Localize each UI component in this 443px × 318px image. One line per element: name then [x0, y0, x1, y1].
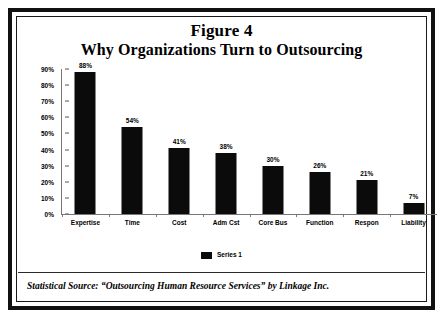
chart-legend: Series 1	[17, 251, 426, 259]
y-axis-tick-70: 70%	[41, 98, 54, 105]
bar-cost[interactable]	[169, 148, 190, 214]
x-axis-category-label: Core Bus	[258, 219, 287, 227]
x-axis-tickmark-adm-cst	[203, 214, 204, 217]
y-axis-tick-0: 0%	[45, 211, 54, 218]
x-axis-category-label: Function	[306, 219, 333, 227]
figure-outer-frame: Figure 4 Why Organizations Turn to Outso…	[8, 8, 435, 310]
caption-divider	[18, 272, 425, 273]
x-axis-tickmark-respon	[343, 214, 344, 217]
y-axis-tick-20: 20%	[41, 178, 54, 185]
bar-group: 88%Expertise	[62, 69, 109, 214]
bar-value-label: 26%	[313, 162, 326, 170]
legend-swatch-series-1	[201, 252, 212, 259]
y-axis-tick-10: 10%	[41, 194, 54, 201]
bar-expertise[interactable]	[75, 72, 96, 214]
bar-value-label: 41%	[173, 138, 186, 146]
y-axis-tick-60: 60%	[41, 114, 54, 121]
x-axis-category-label: Time	[125, 219, 140, 227]
bar-respon[interactable]	[356, 180, 377, 214]
y-axis-tick-80: 80%	[41, 82, 54, 89]
x-axis-tickmark-expertise	[62, 214, 63, 217]
bar-value-label: 38%	[220, 143, 233, 151]
figure-number: Figure 4	[17, 21, 426, 40]
bars-layer: 88%Expertise54%Time41%Cost38%Adm Cst30%C…	[62, 69, 437, 214]
bar-group: 26%Function	[296, 69, 343, 214]
bar-group: 7%Liability	[390, 69, 437, 214]
x-axis-tickmark-liability	[390, 214, 391, 217]
x-axis-tickmark-cost	[156, 214, 157, 217]
bar-liability[interactable]	[403, 203, 424, 214]
x-axis-tickmark-function	[296, 214, 297, 217]
legend-label-series-1: Series 1	[217, 251, 242, 259]
x-axis-tickmark-core-bus	[250, 214, 251, 217]
x-axis-category-label: Respon	[355, 219, 379, 227]
bar-group: 21%Respon	[343, 69, 390, 214]
y-axis-tick-40: 40%	[41, 146, 54, 153]
bar-value-label: 30%	[266, 156, 279, 164]
x-axis-category-label: Cost	[172, 219, 186, 227]
bar-value-label: 54%	[126, 117, 139, 125]
figure-inner-frame: Figure 4 Why Organizations Turn to Outso…	[16, 16, 427, 302]
y-axis-tick-30: 30%	[41, 162, 54, 169]
bar-function[interactable]	[309, 172, 330, 214]
x-axis-tickmark-time	[109, 214, 110, 217]
x-axis-category-label: Liability	[401, 219, 426, 227]
y-axis-tick-90: 90%	[41, 66, 54, 73]
bar-group: 54%Time	[109, 69, 156, 214]
bar-time[interactable]	[122, 127, 143, 214]
y-axis-tick-50: 50%	[41, 130, 54, 137]
bar-chart-plot: 0%10%20%30%40%50%60%70%80%90% 88%Experti…	[17, 69, 426, 249]
y-axis-tick-labels: 0%10%20%30%40%50%60%70%80%90%	[25, 69, 57, 214]
page-title: Why Organizations Turn to Outsourcing	[17, 40, 426, 59]
bar-group: 38%Adm Cst	[203, 69, 250, 214]
source-caption: Statistical Source: “Outsourcing Human R…	[27, 280, 416, 292]
bar-core-bus[interactable]	[262, 166, 283, 214]
figure-body: Figure 4 Why Organizations Turn to Outso…	[17, 17, 426, 301]
bar-group: 41%Cost	[156, 69, 203, 214]
bar-adm-cst[interactable]	[216, 153, 237, 214]
bar-value-label: 88%	[79, 62, 92, 70]
bar-value-label: 7%	[409, 193, 418, 201]
x-axis-category-label: Expertise	[71, 219, 100, 227]
bar-value-label: 21%	[360, 170, 373, 178]
figure-title-block: Figure 4 Why Organizations Turn to Outso…	[17, 21, 426, 59]
bar-group: 30%Core Bus	[250, 69, 297, 214]
x-axis-category-label: Adm Cst	[213, 219, 240, 227]
